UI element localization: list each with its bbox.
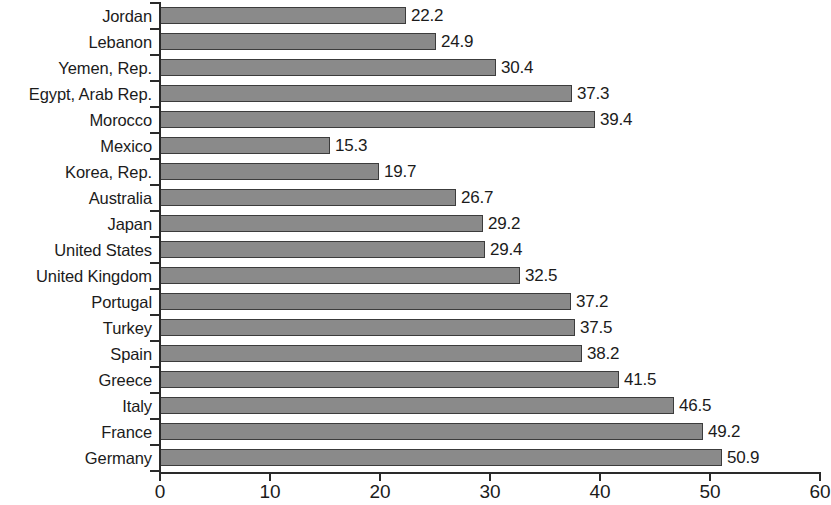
y-axis-tick [150, 132, 160, 134]
category-label: Greece [0, 367, 152, 393]
bar-value-label: 29.2 [485, 213, 520, 235]
bar-value-label: 19.7 [381, 161, 416, 183]
y-axis-tick [150, 210, 160, 212]
bar [160, 189, 456, 206]
bar-value-label: 49.2 [705, 421, 740, 443]
bar [160, 137, 330, 154]
bar-value-label: 41.5 [621, 369, 656, 391]
y-axis-tick [150, 392, 160, 394]
x-axis-tick-label: 50 [675, 481, 745, 503]
bar-value-label: 24.9 [438, 31, 473, 53]
bar [160, 371, 619, 388]
bar [160, 397, 674, 414]
bar [160, 423, 703, 440]
bar-row: Morocco39.4 [0, 107, 831, 133]
y-axis-tick [150, 28, 160, 30]
bar [160, 111, 595, 128]
y-axis-tick [150, 288, 160, 290]
category-label: France [0, 419, 152, 445]
x-axis-tick [489, 472, 491, 481]
bar-row: Korea, Rep.19.7 [0, 159, 831, 185]
bar-row: Greece41.5 [0, 367, 831, 393]
bar-row: Egypt, Arab Rep.37.3 [0, 81, 831, 107]
x-axis-tick-label: 10 [235, 481, 305, 503]
x-axis-tick [819, 472, 821, 481]
bar-row: France49.2 [0, 419, 831, 445]
bar-value-label: 37.3 [574, 83, 609, 105]
bar [160, 163, 379, 180]
x-axis-tick [599, 472, 601, 481]
y-axis-tick [150, 54, 160, 56]
y-axis-tick [150, 444, 160, 446]
x-axis-tick-label: 40 [565, 481, 635, 503]
category-label: Spain [0, 341, 152, 367]
bar-row: Portugal37.2 [0, 289, 831, 315]
category-label: Italy [0, 393, 152, 419]
bar [160, 7, 406, 24]
bar-row: United Kingdom32.5 [0, 263, 831, 289]
bar-value-label: 46.5 [676, 395, 711, 417]
bar-row: Mexico15.3 [0, 133, 831, 159]
y-axis-tick [150, 106, 160, 108]
bar-row: Australia26.7 [0, 185, 831, 211]
y-axis-tick [150, 314, 160, 316]
category-label: United Kingdom [0, 263, 152, 289]
bar-value-label: 22.2 [408, 5, 443, 27]
x-axis-tick-label: 0 [125, 481, 195, 503]
bar-value-label: 29.4 [487, 239, 522, 261]
y-axis-tick [150, 80, 160, 82]
bar-row: Italy46.5 [0, 393, 831, 419]
category-label: Mexico [0, 133, 152, 159]
x-axis-tick-label: 20 [345, 481, 415, 503]
x-axis-tick [269, 472, 271, 481]
y-axis-tick [150, 2, 160, 4]
category-label: Portugal [0, 289, 152, 315]
bar-value-label: 38.2 [584, 343, 619, 365]
y-axis-tick [150, 340, 160, 342]
bar-value-label: 26.7 [458, 187, 493, 209]
y-axis-tick [150, 418, 160, 420]
category-label: Egypt, Arab Rep. [0, 81, 152, 107]
y-axis-tick [150, 184, 160, 186]
bar [160, 33, 436, 50]
bar-row: Spain38.2 [0, 341, 831, 367]
category-label: Japan [0, 211, 152, 237]
bar [160, 59, 496, 76]
bar-value-label: 37.2 [573, 291, 608, 313]
bar [160, 85, 572, 102]
y-axis-tick [150, 366, 160, 368]
bar [160, 241, 485, 258]
bar [160, 215, 483, 232]
category-label: Morocco [0, 107, 152, 133]
bar-row: Yemen, Rep.30.4 [0, 55, 831, 81]
x-axis-tick [379, 472, 381, 481]
bar-value-label: 32.5 [522, 265, 557, 287]
bar-row: Japan29.2 [0, 211, 831, 237]
bar [160, 319, 575, 336]
bar-row: United States29.4 [0, 237, 831, 263]
bar-value-label: 39.4 [597, 109, 632, 131]
y-axis-tick [150, 158, 160, 160]
x-axis-tick-label: 30 [455, 481, 525, 503]
category-label: Australia [0, 185, 152, 211]
bar-row: Lebanon24.9 [0, 29, 831, 55]
category-label: Yemen, Rep. [0, 55, 152, 81]
y-axis-tick [150, 262, 160, 264]
bar-row: Turkey37.5 [0, 315, 831, 341]
bar-value-label: 37.5 [577, 317, 612, 339]
bar [160, 449, 722, 466]
category-label: Turkey [0, 315, 152, 341]
bar-row: Jordan22.2 [0, 3, 831, 29]
bar-row: Germany50.9 [0, 445, 831, 471]
chart-plot-area: Jordan22.2Lebanon24.9Yemen, Rep.30.4Egyp… [0, 0, 831, 472]
x-axis-tick-label: 60 [785, 481, 831, 503]
bar [160, 345, 582, 362]
category-label: Lebanon [0, 29, 152, 55]
bar-value-label: 50.9 [724, 447, 759, 469]
category-label: Jordan [0, 3, 152, 29]
bar [160, 267, 520, 284]
category-label: Korea, Rep. [0, 159, 152, 185]
bar [160, 293, 571, 310]
category-label: Germany [0, 445, 152, 471]
bar-value-label: 15.3 [332, 135, 367, 157]
